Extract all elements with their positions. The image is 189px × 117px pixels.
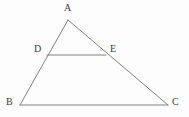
vertex-label-C: C	[172, 97, 179, 107]
side-AB	[20, 20, 68, 105]
geometry-figure: A B C D E	[0, 0, 189, 117]
vertex-label-B: B	[6, 97, 13, 107]
vertex-label-D: D	[34, 44, 41, 54]
side-AC	[68, 20, 168, 105]
triangle-diagram-svg	[0, 0, 189, 117]
vertex-label-A: A	[64, 3, 71, 13]
vertex-label-E: E	[110, 44, 116, 54]
